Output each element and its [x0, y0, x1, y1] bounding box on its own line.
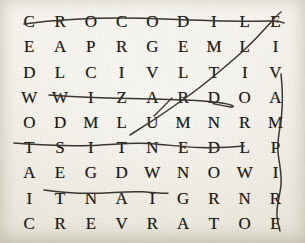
grid-cell[interactable]: L [229, 135, 260, 160]
word-search-puzzle: C R O C O D I L E E A P R G E M L I D L … [0, 0, 305, 243]
grid-cell[interactable]: Z [106, 85, 137, 110]
grid-cell[interactable]: R [45, 211, 76, 236]
grid-cell[interactable]: O [137, 9, 168, 34]
grid-cell[interactable]: U [137, 110, 168, 135]
grid-cell[interactable]: L [168, 59, 199, 84]
grid-cell[interactable]: V [137, 59, 168, 84]
grid-cell[interactable]: T [199, 59, 230, 84]
grid-cell[interactable]: D [199, 135, 230, 160]
grid-cell[interactable]: M [260, 110, 291, 135]
grid-cell[interactable]: O [14, 110, 45, 135]
grid-cell[interactable]: N [76, 186, 107, 211]
grid-cell[interactable]: V [106, 211, 137, 236]
grid-cell[interactable]: L [45, 59, 76, 84]
grid-cell[interactable]: W [45, 85, 76, 110]
grid-cell[interactable]: W [137, 160, 168, 185]
grid-cell[interactable]: A [168, 211, 199, 236]
grid-cell[interactable]: R [260, 186, 291, 211]
grid-cell[interactable]: A [260, 85, 291, 110]
grid-cell[interactable]: W [14, 85, 45, 110]
grid-cell[interactable]: D [168, 9, 199, 34]
grid-cell[interactable]: P [76, 34, 107, 59]
grid-cell[interactable]: G [168, 186, 199, 211]
letter-grid: C R O C O D I L E E A P R G E M L I D L … [14, 9, 291, 236]
grid-cell[interactable]: M [76, 110, 107, 135]
grid-cell[interactable]: R [137, 211, 168, 236]
grid-cell[interactable]: I [76, 85, 107, 110]
grid-cell[interactable]: M [199, 34, 230, 59]
grid-cell[interactable]: C [106, 9, 137, 34]
grid-cell[interactable]: R [168, 85, 199, 110]
grid-cell[interactable]: N [168, 160, 199, 185]
grid-cell[interactable]: C [14, 211, 45, 236]
grid-cell[interactable]: O [229, 211, 260, 236]
grid-cell[interactable]: T [45, 186, 76, 211]
grid-cell[interactable]: O [199, 160, 230, 185]
grid-cell[interactable]: E [14, 34, 45, 59]
grid-cell[interactable]: N [199, 110, 230, 135]
grid-cell[interactable]: D [106, 160, 137, 185]
grid-cell[interactable]: E [260, 9, 291, 34]
grid-cell[interactable]: R [229, 110, 260, 135]
grid-cell[interactable]: I [260, 34, 291, 59]
grid-cell[interactable]: T [199, 211, 230, 236]
grid-cell[interactable]: L [229, 9, 260, 34]
grid-cell[interactable]: O [229, 85, 260, 110]
grid-cell[interactable]: G [76, 160, 107, 185]
grid-cell[interactable]: I [76, 135, 107, 160]
grid-cell[interactable]: P [260, 135, 291, 160]
grid-cell[interactable]: A [137, 85, 168, 110]
grid-cell[interactable]: I [260, 160, 291, 185]
grid-cell[interactable]: R [45, 9, 76, 34]
grid-cell[interactable]: C [76, 59, 107, 84]
grid-cell[interactable]: T [14, 135, 45, 160]
grid-cell[interactable]: R [106, 34, 137, 59]
grid-cell[interactable]: D [45, 110, 76, 135]
grid-cell[interactable]: A [106, 186, 137, 211]
grid-cell[interactable]: I [229, 59, 260, 84]
grid-cell[interactable]: C [14, 9, 45, 34]
grid-cell[interactable]: E [168, 34, 199, 59]
grid-cell[interactable]: A [45, 34, 76, 59]
grid-cell[interactable]: D [199, 85, 230, 110]
grid-cell[interactable]: L [229, 34, 260, 59]
grid-cell[interactable]: I [199, 9, 230, 34]
grid-cell[interactable]: N [229, 186, 260, 211]
grid-cell[interactable]: A [14, 160, 45, 185]
grid-cell[interactable]: N [137, 135, 168, 160]
grid-cell[interactable]: E [76, 211, 107, 236]
grid-cell[interactable]: E [45, 160, 76, 185]
grid-cell[interactable]: O [76, 9, 107, 34]
grid-cell[interactable]: R [199, 186, 230, 211]
grid-cell[interactable]: W [229, 160, 260, 185]
grid-cell[interactable]: S [45, 135, 76, 160]
grid-cell[interactable]: E [260, 211, 291, 236]
grid-cell[interactable]: M [168, 110, 199, 135]
grid-cell[interactable]: T [106, 135, 137, 160]
grid-cell[interactable]: V [260, 59, 291, 84]
grid-cell[interactable]: G [137, 34, 168, 59]
grid-cell[interactable]: E [168, 135, 199, 160]
grid-cell[interactable]: L [106, 110, 137, 135]
grid-cell[interactable]: I [137, 186, 168, 211]
grid-cell[interactable]: I [106, 59, 137, 84]
grid-cell[interactable]: D [14, 59, 45, 84]
grid-cell[interactable]: I [14, 186, 45, 211]
